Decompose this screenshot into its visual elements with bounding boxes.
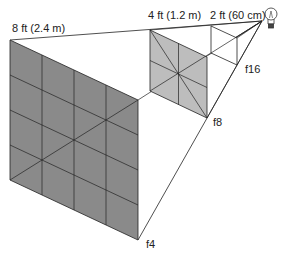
distance-label-large: 8 ft (2.4 m) xyxy=(12,22,65,34)
inverse-square-diagram: 8 ft (2.4 m) 4 ft (1.2 m) 2 ft (60 cm) f… xyxy=(0,0,292,255)
light-bulb-icon xyxy=(265,8,277,28)
distance-label-medium: 4 ft (1.2 m) xyxy=(148,9,201,21)
aperture-label-f8: f8 xyxy=(213,116,222,128)
distance-label-small: 2 ft (60 cm) xyxy=(210,9,266,21)
aperture-label-f16: f16 xyxy=(245,63,260,75)
aperture-label-f4: f4 xyxy=(146,238,155,250)
diagram-graphic xyxy=(0,0,292,255)
